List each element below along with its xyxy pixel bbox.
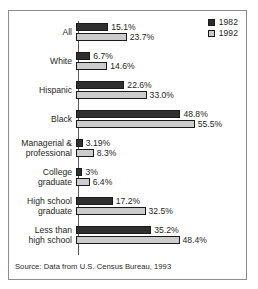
bar-group: Black48.8%55.5% (9, 108, 246, 130)
category-label: All (9, 27, 75, 37)
bar-row-1982: 6.7% (76, 52, 113, 60)
bar-value-label: 32.5% (149, 207, 173, 216)
bar-value-label: 48.8% (183, 110, 207, 119)
bar-row-1982: 17.2% (76, 197, 140, 205)
bar-value-label: 3% (85, 168, 97, 177)
category-label: High schoolgraduate (9, 196, 75, 216)
category-label-line: high school (9, 235, 72, 245)
category-label-line: Managerial & (9, 138, 72, 148)
category-label-line: Black (51, 114, 72, 124)
bar-value-label: 48.4% (183, 236, 207, 245)
bar-1982 (76, 23, 108, 31)
category-label: Black (9, 114, 75, 124)
bar-1982 (76, 226, 151, 234)
bar-1992 (76, 207, 146, 215)
bars-container: 3%6.4% (75, 166, 246, 188)
category-label-line: graduate (9, 206, 72, 216)
bar-1982 (76, 81, 124, 89)
bar-row-1992: 48.4% (76, 236, 207, 244)
category-label-line: Less than (9, 225, 72, 235)
bar-groups: All15.1%23.7%White6.7%14.6%Hispanic22.6%… (9, 21, 246, 253)
bars-container: 48.8%55.5% (75, 108, 246, 130)
bar-1992 (76, 178, 90, 186)
bar-value-label: 35.2% (154, 226, 178, 235)
category-label-line: College (9, 167, 72, 177)
bar-group: White6.7%14.6% (9, 50, 246, 72)
bar-1982 (76, 52, 90, 60)
bar-1982 (76, 139, 83, 147)
bar-value-label: 15.1% (111, 23, 135, 32)
bar-row-1982: 3.19% (76, 139, 110, 147)
category-label-line: High school (9, 196, 72, 206)
bars-container: 15.1%23.7% (75, 21, 246, 43)
bar-value-label: 8.3% (97, 149, 117, 158)
bar-1982 (76, 110, 180, 118)
bar-group: Managerial &professional3.19%8.3% (9, 137, 246, 159)
bar-1982 (76, 197, 113, 205)
bar-value-label: 17.2% (116, 197, 140, 206)
category-label-line: White (50, 56, 72, 66)
bar-value-label: 6.4% (93, 178, 113, 187)
bar-row-1982: 48.8% (76, 110, 208, 118)
bar-row-1992: 55.5% (76, 120, 222, 128)
bar-value-label: 23.7% (130, 33, 154, 42)
category-label-line: All (62, 27, 72, 37)
bars-container: 22.6%33.0% (75, 79, 246, 101)
chart-frame: 19821992 All15.1%23.7%White6.7%14.6%Hisp… (8, 10, 247, 280)
bars-container: 6.7%14.6% (75, 50, 246, 72)
category-label: White (9, 56, 75, 66)
bars-container: 3.19%8.3% (75, 137, 246, 159)
bar-1992 (76, 62, 107, 70)
bars-container: 17.2%32.5% (75, 195, 246, 217)
bar-row-1982: 22.6% (76, 81, 152, 89)
bar-group: Hispanic22.6%33.0% (9, 79, 246, 101)
bar-group: All15.1%23.7% (9, 21, 246, 43)
bar-group: Less thanhigh school35.2%48.4% (9, 224, 246, 246)
bar-group: High schoolgraduate17.2%32.5% (9, 195, 246, 217)
bar-value-label: 33.0% (150, 91, 174, 100)
bar-row-1992: 8.3% (76, 149, 116, 157)
bar-1992 (76, 91, 147, 99)
bars-container: 35.2%48.4% (75, 224, 246, 246)
category-label-line: professional (9, 148, 72, 158)
bar-row-1982: 35.2% (76, 226, 179, 234)
bar-group: Collegegraduate3%6.4% (9, 166, 246, 188)
bar-row-1992: 14.6% (76, 62, 135, 70)
bar-value-label: 3.19% (86, 139, 110, 148)
category-label: Less thanhigh school (9, 225, 75, 245)
bar-1992 (76, 149, 94, 157)
chart-plot-area: 19821992 All15.1%23.7%White6.7%14.6%Hisp… (9, 11, 246, 279)
bar-1992 (76, 33, 127, 41)
bar-row-1992: 33.0% (76, 91, 174, 99)
category-label: Managerial &professional (9, 138, 75, 158)
bar-value-label: 6.7% (93, 52, 113, 61)
bar-row-1992: 6.4% (76, 178, 112, 186)
bar-value-label: 22.6% (127, 81, 151, 90)
bar-value-label: 14.6% (110, 62, 134, 71)
bar-row-1992: 23.7% (76, 33, 154, 41)
category-label: Hispanic (9, 85, 75, 95)
bar-1982 (76, 168, 82, 176)
bar-1992 (76, 236, 180, 244)
bar-row-1982: 3% (76, 168, 98, 176)
category-label-line: Hispanic (39, 85, 72, 95)
bar-1992 (76, 120, 195, 128)
bar-row-1992: 32.5% (76, 207, 173, 215)
bar-row-1982: 15.1% (76, 23, 136, 31)
category-label: Collegegraduate (9, 167, 75, 187)
bar-value-label: 55.5% (198, 120, 222, 129)
source-note: Source: Data from U.S. Census Bureau, 19… (15, 262, 171, 271)
category-label-line: graduate (9, 177, 72, 187)
